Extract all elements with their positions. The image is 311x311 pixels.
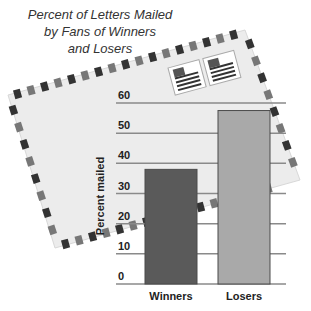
y-tick-label: 40 [118,149,130,161]
y-tick-label: 0 [118,270,124,282]
y-tick-label: 50 [118,119,130,131]
y-tick-label: 10 [118,240,130,252]
bar-losers [218,111,270,284]
y-tick-label: 60 [118,89,130,101]
y-axis-label: Percent mailed [94,146,106,246]
y-tick-label: 30 [118,180,130,192]
x-tick-label: Winners [149,290,192,302]
bar-chart: 0102030405060WinnersLosers [0,0,311,311]
bar-winners [145,169,197,284]
x-tick-label: Losers [226,290,262,302]
y-tick-label: 20 [118,210,130,222]
